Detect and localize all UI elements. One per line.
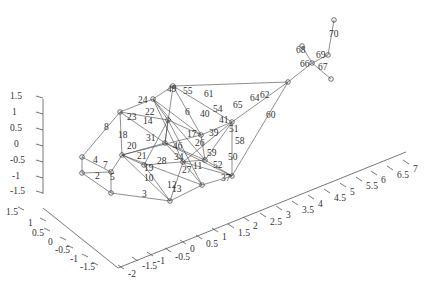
z-axis-tick-label: 1.5 <box>10 91 22 101</box>
y-axis-tick <box>82 254 88 257</box>
edge-label: 3 <box>142 189 147 199</box>
x-axis-tick <box>132 257 138 261</box>
y-axis-tick-label: -1.5 <box>80 262 95 272</box>
edge-label: 39 <box>209 128 219 138</box>
x-axis-tick-label: 5 <box>350 187 355 197</box>
x-axis-tick-label: -0.5 <box>175 252 190 262</box>
edge-label: 46 <box>173 141 183 151</box>
x-axis-tick <box>243 217 249 221</box>
x-axis-tick-label: 6 <box>381 175 386 185</box>
x-axis-tick <box>371 171 377 175</box>
y-axis-tick <box>40 218 46 221</box>
z-axis-tick <box>36 144 43 146</box>
z-axis-tick-label: -1 <box>12 171 20 181</box>
x-axis-tick <box>340 183 346 187</box>
y-axis-tick-label: 1.5 <box>6 207 18 217</box>
y-axis-tick-label: -1 <box>70 254 78 264</box>
edge-label: 8 <box>104 122 109 132</box>
edge-label: 27 <box>182 165 192 175</box>
edge-label: 50 <box>228 152 238 162</box>
edge-label: 37 <box>221 173 231 183</box>
edge-label: 20 <box>127 141 137 151</box>
edge-label: 66 <box>300 59 310 69</box>
edge-label: 49 <box>167 84 177 94</box>
x-axis-tick-label: 4 <box>318 199 323 209</box>
graph-edge <box>82 112 120 157</box>
edge-label: 4 <box>93 155 98 165</box>
edge-label: 40 <box>200 109 210 119</box>
edge-label: 62 <box>260 90 270 100</box>
x-axis-tick <box>324 189 330 193</box>
z-axis-tick-label: 0.5 <box>10 123 22 133</box>
y-axis-tick <box>60 237 66 240</box>
z-axis-tick-label: 0 <box>14 139 19 149</box>
y-axis-tick-label: 0 <box>48 237 53 247</box>
edge-label: 67 <box>318 62 328 72</box>
edge-label: 58 <box>235 136 245 146</box>
edge-label: 7 <box>103 160 108 170</box>
x-axis-tick-label: 2 <box>253 221 258 231</box>
x-axis-tick-label: 0 <box>190 244 195 254</box>
edge-label: 60 <box>266 110 276 120</box>
z-axis-tick <box>36 128 43 130</box>
y-axis-tick <box>44 228 50 231</box>
graph-3d-plot: 1.510.50-0.5-1-1.51.510.50-0.5-1-1.5-2-1… <box>0 0 437 284</box>
z-axis-tick-label: 1 <box>12 107 17 117</box>
edge-label: 26 <box>195 138 205 148</box>
edge-label: 18 <box>118 130 128 140</box>
edge-label: 54 <box>213 104 223 114</box>
edge-labels: 8472531820232422495561655440614312119101… <box>93 29 339 199</box>
edge-label: 11 <box>193 161 202 171</box>
x-axis-tick-label: 4.5 <box>334 193 346 203</box>
edge-label: 24 <box>138 95 148 105</box>
edge-label: 64 <box>250 93 260 103</box>
edge-label: 34 <box>174 152 184 162</box>
y-axis-tick-label: -0.5 <box>55 245 70 255</box>
axes: 1.510.50-0.5-1-1.51.510.50-0.5-1-1.5-2-1… <box>6 91 418 279</box>
graph-edge <box>111 155 122 172</box>
y-axis-line <box>43 208 118 268</box>
z-axis-tick <box>36 96 43 98</box>
edge-label: 19 <box>144 163 154 173</box>
edge-label: 55 <box>183 86 193 96</box>
z-axis-tick <box>36 160 43 162</box>
x-axis-tick-label: 7 <box>413 164 418 174</box>
x-axis-tick-label: 1 <box>222 232 227 242</box>
edge-label: 61 <box>204 89 214 99</box>
x-axis-tick-label: 3 <box>286 210 291 220</box>
x-axis-tick <box>403 160 409 164</box>
edge-label: 21 <box>137 151 147 161</box>
edge-label: 13 <box>172 184 182 194</box>
x-axis-tick <box>260 213 266 217</box>
x-axis-tick <box>387 166 393 170</box>
edge-label: 23 <box>127 112 137 122</box>
edge-label: 5 <box>110 172 115 182</box>
edge-label: 2 <box>95 171 100 181</box>
z-axis-tick <box>36 112 43 114</box>
edge-label: 41 <box>219 115 229 125</box>
x-axis-tick-label: 6.5 <box>397 170 409 180</box>
z-axis-tick-label: -0.5 <box>10 155 25 165</box>
edge-label: 6 <box>185 107 190 117</box>
edge-label: 52 <box>213 160 223 170</box>
edge-label: 68 <box>296 45 306 55</box>
edge-label: 59 <box>207 148 217 158</box>
x-axis-tick <box>228 224 234 228</box>
x-axis-tick-label: 0.5 <box>206 239 218 249</box>
y-axis-tick-label: 0.5 <box>32 228 44 238</box>
graph-edge <box>153 99 168 120</box>
x-axis-tick <box>292 201 298 205</box>
x-axis-tick <box>165 248 171 252</box>
edge-label: 10 <box>144 173 154 183</box>
edge-label: 28 <box>157 156 167 166</box>
graph-edge <box>111 193 170 201</box>
x-axis-tick-label: -1.5 <box>142 261 157 271</box>
x-axis-tick-label: -1 <box>157 256 165 266</box>
z-axis-tick <box>36 191 43 193</box>
z-axis-tick <box>36 176 43 178</box>
y-axis-tick-label: 1 <box>28 218 33 228</box>
x-axis-tick <box>276 206 282 210</box>
x-axis-tick <box>356 177 362 181</box>
edge-label: 31 <box>146 133 156 143</box>
x-axis-tick-label: 2.5 <box>270 217 282 227</box>
